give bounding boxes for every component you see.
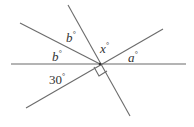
angle-diagram: b° b° x° a° 30° [0,0,194,127]
label-x: x° [99,41,110,56]
steep-line [68,5,130,116]
label-b-lower: b° [52,49,63,64]
intersection-point [99,63,102,66]
label-30: 30° [49,72,65,87]
label-a: a° [128,50,139,65]
label-b-upper: b° [66,30,77,45]
